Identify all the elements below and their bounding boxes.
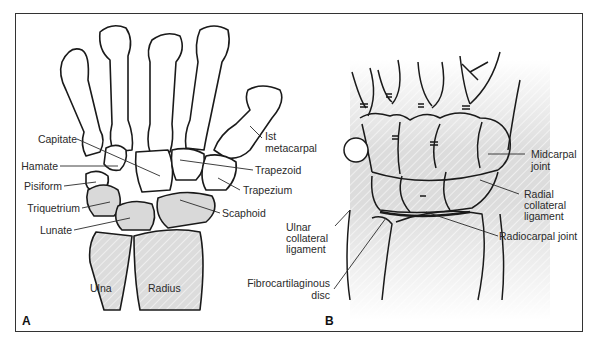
lunate bbox=[116, 201, 155, 230]
label-trapezoid: Trapezoid bbox=[255, 165, 301, 176]
label-fibrocartilaginous-line2: disc bbox=[240, 290, 330, 301]
label-fibrocartilaginous-line1: Fibrocartilaginous bbox=[240, 278, 330, 289]
panel-a-drawing bbox=[61, 26, 282, 310]
label-trapezium: Trapezium bbox=[243, 185, 292, 196]
trapezoid bbox=[172, 149, 205, 180]
panel-letter-a: A bbox=[22, 314, 31, 328]
metacarpal-3 bbox=[148, 34, 182, 152]
metacarpal-2 bbox=[186, 26, 230, 150]
label-midcarpal-line2: joint bbox=[531, 161, 550, 172]
label-triquetrium: Triquetrium bbox=[22, 203, 80, 214]
panel-letter-b: B bbox=[325, 314, 334, 328]
label-radial-collateral-line3: ligament bbox=[524, 211, 564, 222]
hamate bbox=[104, 145, 126, 170]
label-pisiform: Pisiform bbox=[20, 181, 62, 192]
ulna bbox=[90, 232, 132, 310]
radius bbox=[134, 230, 203, 310]
label-midcarpal-line1: Midcarpal bbox=[531, 149, 577, 160]
label-scaphoid: Scaphoid bbox=[222, 208, 266, 219]
metacarpal-4 bbox=[100, 26, 133, 152]
panel-b-drawing bbox=[344, 52, 550, 320]
capitate bbox=[136, 150, 173, 192]
label-lunate: Lunate bbox=[36, 225, 72, 236]
label-ulnar-collateral-line3: ligament bbox=[286, 244, 326, 255]
label-hamate: Hamate bbox=[18, 161, 58, 172]
pisiform-b bbox=[344, 138, 368, 162]
triquetrium bbox=[87, 185, 120, 216]
label-radiocarpal-joint: Radiocarpal joint bbox=[499, 231, 577, 242]
scaphoid bbox=[157, 192, 215, 228]
label-ulna: Ulna bbox=[90, 283, 112, 294]
label-first-metacarpal-line1: Ist bbox=[265, 131, 276, 142]
label-first-metacarpal-line2: metacarpal bbox=[265, 143, 317, 154]
label-radius: Radius bbox=[148, 283, 181, 294]
label-capitate: Capitate bbox=[37, 134, 77, 145]
